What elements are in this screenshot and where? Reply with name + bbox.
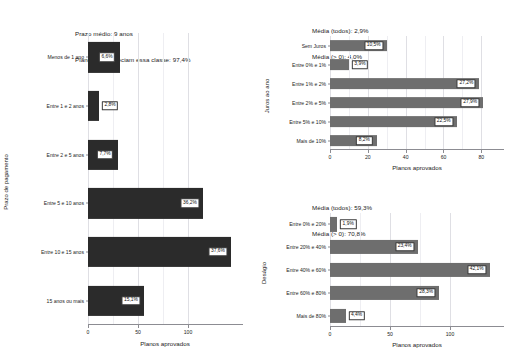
axis-label-x-prazo-pagamento: Planos aprovados <box>140 340 190 347</box>
axis-ticklabel-y: Mais de 80% <box>297 313 326 319</box>
axis-tick-x <box>450 327 451 330</box>
bar-value-label: 15,1% <box>121 296 140 305</box>
axis-ticklabel-x: 80 <box>478 154 484 160</box>
bar-value-label: 8,2% <box>356 136 372 145</box>
axis-tick-y <box>328 270 331 271</box>
axis-label-x-desagio: Planos aprovados <box>392 341 442 348</box>
grid-line-x-minor <box>387 36 388 150</box>
axis-ticklabel-x: 60 <box>441 154 447 160</box>
axis-tick-y <box>328 64 331 65</box>
bar-value-label: 1,9% <box>340 220 356 229</box>
axis-tick-y <box>86 252 89 253</box>
axis-ticklabel-y: Entre 1% e 2% <box>292 81 326 87</box>
axis-tick-x <box>330 150 331 153</box>
axis-ticklabel-y: Entre 1 e 2 anos <box>47 103 84 109</box>
axis-tick-x <box>443 150 444 153</box>
axis-tick-x <box>406 150 407 153</box>
axis-ticklabel-y: Entre 2 e 5 anos <box>47 152 84 158</box>
axis-line-x <box>330 326 504 327</box>
axis-tick-y <box>328 224 331 225</box>
grid-line-x-minor <box>462 36 463 150</box>
axis-ticklabel-y: Entre 2% e 5% <box>292 100 326 106</box>
grid-line-x-minor <box>349 36 350 150</box>
axis-tick-x <box>368 150 369 153</box>
axis-tick-x <box>138 325 139 328</box>
axis-ticklabel-y: Entre 20% e 40% <box>286 244 326 250</box>
axis-tick-y <box>86 203 89 204</box>
axis-ticklabel-x: 40 <box>403 154 409 160</box>
axis-tick-y <box>328 121 331 122</box>
axis-tick-y <box>328 292 331 293</box>
axis-line-x <box>330 149 504 150</box>
plot-area-desagio: Entre 0% e 20%1,9%Entre 20% e 40%23,4%En… <box>330 213 504 327</box>
grid-line-x <box>406 36 407 150</box>
bar-value-label: 3,9% <box>352 60 368 69</box>
axis-tick-x <box>390 327 391 330</box>
figure-canvas: Prazo médio: 9 anos Planos que apreciam … <box>0 0 518 362</box>
grid-line-x-minor <box>425 36 426 150</box>
plot-area-prazo-pagamento: Menos de 1 ano6,6%Entre 1 e 2 anos2,8%En… <box>88 33 243 325</box>
grid-line-x <box>481 36 482 150</box>
axis-label-y-desagio: Deságio <box>261 262 267 284</box>
chart-title-line-1: Média (todos): 2,9% <box>312 27 369 36</box>
bar-value-label: 28,3% <box>417 288 436 297</box>
plot-area-juros-ao-ano: Sem Juros10,5%Entre 0% e 1%3,9%Entre 1% … <box>330 36 504 150</box>
axis-ticklabel-x: 20 <box>365 154 371 160</box>
bar-value-label: 42,1% <box>467 265 486 274</box>
axis-ticklabel-y: 15 anos ou mais <box>47 298 84 304</box>
axis-tick-y <box>328 102 331 103</box>
axis-ticklabel-x: 0 <box>329 331 332 337</box>
bar[interactable] <box>330 309 346 323</box>
bar-value-label: 7,7% <box>97 150 113 159</box>
bar-value-label: 6,6% <box>99 53 115 62</box>
grid-line-x-minor <box>113 33 114 325</box>
grid-line-x <box>138 33 139 325</box>
axis-tick-x <box>481 150 482 153</box>
chart-title-line-1: Média (todos): 59,3% <box>312 204 372 213</box>
axis-tick-y <box>328 140 331 141</box>
bar-value-label: 27,9% <box>461 98 480 107</box>
bar-value-label: 36,2% <box>180 199 199 208</box>
axis-label-y-prazo-pagamento: Prazo de pagamento <box>3 154 9 210</box>
bar-value-label: 23,4% <box>395 243 414 252</box>
chart-panel-prazo-pagamento: Prazo médio: 9 anos Planos que apreciam … <box>0 0 255 362</box>
bar[interactable] <box>330 217 337 231</box>
axis-ticklabel-y: Sem Juros <box>302 43 326 49</box>
chart-panel-desagio: Média (todos): 59,3% Média (> 0): 70,8% … <box>255 181 518 362</box>
grid-line-x <box>443 36 444 150</box>
axis-tick-y <box>328 83 331 84</box>
chart-panel-juros-ao-ano: Média (todos): 2,9% Média (> 0): 4,0% Se… <box>255 0 518 181</box>
axis-ticklabel-y: Entre 5% e 10% <box>289 119 326 125</box>
bar[interactable] <box>330 59 349 71</box>
axis-tick-y <box>86 106 89 107</box>
axis-tick-x <box>330 327 331 330</box>
bar-value-label: 4,4% <box>348 311 364 320</box>
axis-tick-y <box>86 154 89 155</box>
axis-ticklabel-y: Entre 40% e 60% <box>286 267 326 273</box>
axis-tick-y <box>328 247 331 248</box>
bar-value-label: 22,5% <box>434 117 453 126</box>
bar-value-label: 10,5% <box>364 41 383 50</box>
bar[interactable] <box>330 263 490 277</box>
grid-line-x <box>88 33 89 325</box>
axis-ticklabel-y: Entre 10 e 15 anos <box>41 249 84 255</box>
bar[interactable] <box>88 91 99 121</box>
axis-label-x-juros-ao-ano: Planos aprovados <box>392 164 442 171</box>
grid-line-x <box>330 36 331 150</box>
axis-ticklabel-x: 50 <box>135 329 141 335</box>
axis-ticklabel-x: 100 <box>184 329 193 335</box>
bar-value-label: 2,8% <box>102 101 118 110</box>
axis-tick-y <box>328 315 331 316</box>
bar-value-label: 27,2% <box>457 79 476 88</box>
grid-line-x-minor <box>163 33 164 325</box>
axis-ticklabel-y: Entre 60% e 80% <box>286 290 326 296</box>
axis-ticklabel-y: Entre 5 e 10 anos <box>44 200 84 206</box>
grid-line-x <box>188 33 189 325</box>
grid-line-x <box>368 36 369 150</box>
axis-line-x <box>88 324 243 325</box>
axis-tick-x <box>188 325 189 328</box>
axis-tick-y <box>328 45 331 46</box>
axis-ticklabel-y: Mais de 10% <box>297 138 326 144</box>
axis-ticklabel-y: Menos de 1 ano <box>47 54 84 60</box>
axis-ticklabel-x: 100 <box>446 331 455 337</box>
